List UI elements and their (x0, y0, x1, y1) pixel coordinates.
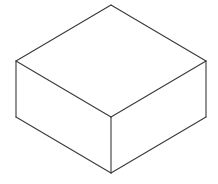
isometric-box-drawing (0, 0, 218, 184)
diagram-canvas: Isometric box (0, 0, 218, 184)
